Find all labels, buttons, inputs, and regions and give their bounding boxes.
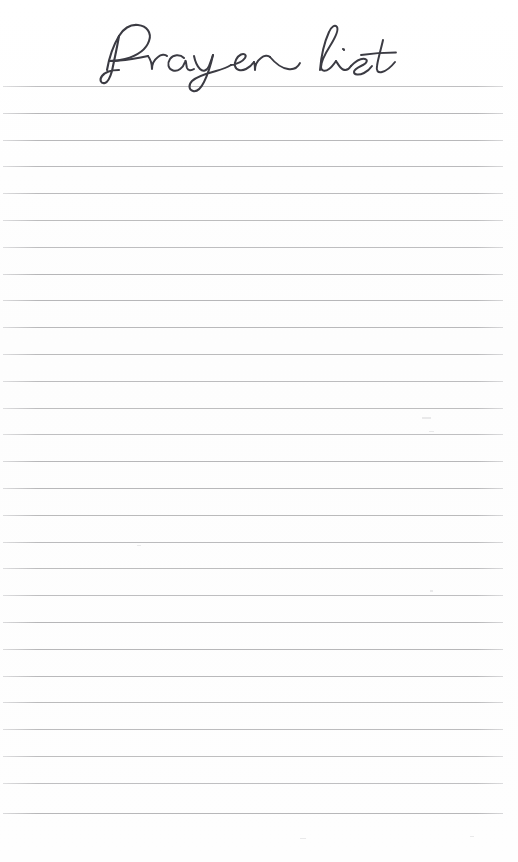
ruled-line [3,381,503,382]
ruled-line [3,300,503,301]
ruled-line [3,434,503,435]
ruled-line [3,568,503,569]
ruled-lines [0,0,518,862]
ruled-line [3,813,503,814]
ruled-line [3,461,503,462]
ruled-line [3,542,503,543]
ruled-line [3,622,503,623]
ruled-line [3,783,503,784]
ruled-line [3,274,503,275]
page-header: Prayer list [0,0,518,86]
ruled-line [3,354,503,355]
ruled-line [3,166,503,167]
ruled-line [3,327,503,328]
ruled-line [3,488,503,489]
ruled-line [3,676,503,677]
ruled-line [3,247,503,248]
page-title-script [95,16,415,88]
ruled-line [3,729,503,730]
ruled-line [3,702,503,703]
ruled-line [3,408,503,409]
ruled-line [3,756,503,757]
ruled-line [3,595,503,596]
ruled-line [3,193,503,194]
ruled-line [3,113,503,114]
ruled-line [3,515,503,516]
ruled-line [3,220,503,221]
prayer-list-page: Prayer list [0,0,518,862]
ruled-line [3,649,503,650]
ruled-line [3,140,503,141]
